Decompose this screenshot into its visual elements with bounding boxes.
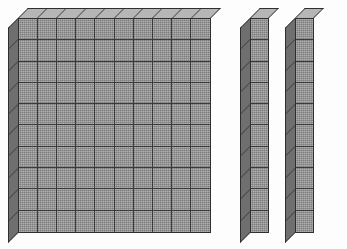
unit-cube xyxy=(296,168,313,189)
unit-cube xyxy=(115,125,134,146)
unit-cube xyxy=(153,147,172,168)
unit-cube xyxy=(76,104,95,125)
unit-cube xyxy=(191,168,210,189)
unit-cube xyxy=(153,189,172,210)
unit-cube xyxy=(172,211,191,232)
unit-cube xyxy=(251,168,268,189)
unit-cube xyxy=(57,62,76,83)
unit-cube xyxy=(76,62,95,83)
unit-cube xyxy=(38,40,57,61)
unit-cube xyxy=(38,168,57,189)
tens-rod-1-unit-grid xyxy=(251,19,268,232)
unit-cube xyxy=(134,19,153,40)
unit-cube xyxy=(38,62,57,83)
unit-cube xyxy=(153,62,172,83)
unit-cube xyxy=(191,19,210,40)
unit-cube xyxy=(19,104,38,125)
unit-cube xyxy=(134,189,153,210)
unit-cube xyxy=(19,211,38,232)
unit-cube xyxy=(57,40,76,61)
base-ten-blocks-canvas xyxy=(0,0,347,249)
unit-cube xyxy=(296,189,313,210)
unit-cube xyxy=(172,147,191,168)
unit-cube xyxy=(115,147,134,168)
unit-cube xyxy=(95,189,114,210)
unit-cube xyxy=(134,83,153,104)
tens-rod-1-front-face xyxy=(250,18,269,233)
unit-cube xyxy=(251,147,268,168)
unit-cube xyxy=(57,168,76,189)
unit-cube xyxy=(153,125,172,146)
unit-cube xyxy=(191,125,210,146)
unit-cube xyxy=(95,211,114,232)
unit-cube xyxy=(19,125,38,146)
top-tick xyxy=(296,9,322,18)
tens-rod-1-left-tick-group xyxy=(241,19,250,241)
unit-cube xyxy=(95,62,114,83)
unit-cube xyxy=(153,104,172,125)
unit-cube xyxy=(95,147,114,168)
unit-cube xyxy=(57,19,76,40)
unit-cube xyxy=(57,104,76,125)
unit-cube xyxy=(251,125,268,146)
unit-cube xyxy=(38,125,57,146)
unit-cube xyxy=(153,168,172,189)
unit-cube xyxy=(57,189,76,210)
unit-cube xyxy=(172,168,191,189)
unit-cube xyxy=(38,189,57,210)
unit-cube xyxy=(191,62,210,83)
tens-rod-1[interactable] xyxy=(250,18,269,233)
unit-cube xyxy=(76,40,95,61)
top-tick xyxy=(251,9,277,18)
unit-cube xyxy=(95,168,114,189)
unit-cube xyxy=(38,19,57,40)
hundreds-flat-front-face xyxy=(18,18,211,233)
unit-cube xyxy=(134,168,153,189)
unit-cube xyxy=(57,125,76,146)
unit-cube xyxy=(115,104,134,125)
unit-cube xyxy=(172,40,191,61)
unit-cube xyxy=(251,19,268,40)
hundreds-flat-left-tick-group xyxy=(9,19,18,241)
unit-cube xyxy=(19,19,38,40)
unit-cube xyxy=(19,168,38,189)
unit-cube xyxy=(191,40,210,61)
unit-cube xyxy=(296,83,313,104)
tens-rod-1-top-tick-group xyxy=(251,9,277,18)
unit-cube xyxy=(296,62,313,83)
unit-cube xyxy=(115,19,134,40)
unit-cube xyxy=(251,104,268,125)
unit-cube xyxy=(172,189,191,210)
unit-cube xyxy=(19,189,38,210)
unit-cube xyxy=(296,147,313,168)
unit-cube xyxy=(251,83,268,104)
unit-cube xyxy=(172,125,191,146)
unit-cube xyxy=(19,147,38,168)
unit-cube xyxy=(251,211,268,232)
unit-cube xyxy=(76,211,95,232)
unit-cube xyxy=(38,83,57,104)
unit-cube xyxy=(38,211,57,232)
unit-cube xyxy=(296,40,313,61)
unit-cube xyxy=(95,125,114,146)
unit-cube xyxy=(172,19,191,40)
unit-cube xyxy=(251,189,268,210)
hundreds-flat-top-tick-group xyxy=(19,9,219,18)
unit-cube xyxy=(95,40,114,61)
unit-cube xyxy=(191,147,210,168)
unit-cube xyxy=(76,19,95,40)
unit-cube xyxy=(38,104,57,125)
tens-rod-2-front-face xyxy=(295,18,314,233)
unit-cube xyxy=(38,147,57,168)
hundreds-flat[interactable] xyxy=(18,18,211,233)
unit-cube xyxy=(134,147,153,168)
tens-rod-2[interactable] xyxy=(295,18,314,233)
unit-cube xyxy=(251,40,268,61)
unit-cube xyxy=(19,40,38,61)
unit-cube xyxy=(57,211,76,232)
tens-rod-2-left-face xyxy=(285,18,295,243)
unit-cube xyxy=(76,168,95,189)
unit-cube xyxy=(76,147,95,168)
unit-cube xyxy=(296,125,313,146)
unit-cube xyxy=(57,83,76,104)
